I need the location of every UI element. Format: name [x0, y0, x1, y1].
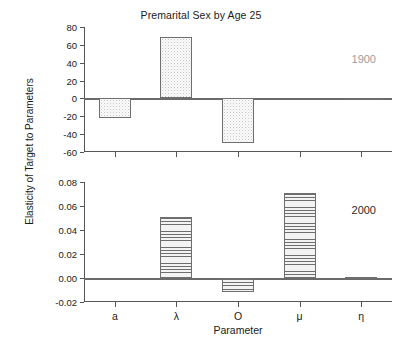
y-axis-label: Elasticity of Target to Parameters — [24, 37, 35, 267]
y-tick-label-2000: 0.08 — [59, 177, 78, 188]
x-tick-1900 — [238, 152, 239, 157]
panel-annotation-1900: 1900 — [352, 53, 376, 65]
x-tick-2000 — [115, 302, 116, 307]
y-tick-2000 — [80, 182, 84, 183]
x-tick-1900 — [115, 152, 116, 157]
y-tick-1900 — [80, 116, 84, 117]
bar-2000-μ — [284, 193, 316, 278]
y-tick-1900 — [80, 81, 84, 82]
y-tick-2000 — [80, 230, 84, 231]
y-tick-1900 — [80, 27, 84, 28]
y-tick-label-1900: 60 — [66, 39, 77, 50]
bar-2000-η — [345, 277, 377, 279]
x-tick-label-μ: μ — [297, 310, 303, 322]
y-tick-2000 — [80, 302, 84, 303]
y-tick-label-1900: -20 — [63, 111, 77, 122]
y-tick-label-2000: 0.02 — [59, 249, 78, 260]
y-tick-label-2000: 0.06 — [59, 201, 78, 212]
plot-area-1900: 806040200-20-40-60 — [84, 27, 392, 152]
y-tick-1900 — [80, 63, 84, 64]
x-tick-2000 — [300, 302, 301, 307]
y-tick-1900 — [80, 152, 84, 153]
y-axis-line-2000 — [84, 182, 85, 302]
panel-1900: 806040200-20-40-60 1900 — [84, 27, 392, 152]
panel-annotation-2000: 2000 — [352, 204, 376, 216]
y-tick-label-1900: -60 — [63, 147, 77, 158]
chart-title: Premarital Sex by Age 25 — [0, 9, 402, 21]
x-tick-1900 — [300, 152, 301, 157]
x-tick-2000 — [238, 302, 239, 307]
bar-2000-λ — [160, 217, 192, 278]
y-tick-label-1900: -40 — [63, 129, 77, 140]
bar-2000-O — [222, 278, 254, 292]
x-tick-label-η: η — [358, 310, 364, 322]
x-axis-label: Parameter — [84, 324, 392, 336]
chart-figure: Premarital Sex by Age 25 Elasticity of T… — [0, 0, 402, 343]
y-tick-1900 — [80, 45, 84, 46]
bar-1900-O — [222, 98, 254, 143]
bar-1900-η — [345, 98, 377, 100]
y-axis-line-1900 — [84, 27, 85, 152]
x-tick-2000 — [361, 302, 362, 307]
y-tick-label-1900: 40 — [66, 57, 77, 68]
y-tick-label-1900: 20 — [66, 75, 77, 86]
plot-area-2000: 0.080.060.040.020.00-0.02aλOμη — [84, 182, 392, 302]
y-tick-2000 — [80, 254, 84, 255]
y-tick-label-2000: 0.00 — [59, 273, 78, 284]
y-tick-label-1900: 0 — [72, 93, 77, 104]
x-tick-1900 — [176, 152, 177, 157]
x-tick-label-λ: λ — [174, 310, 179, 322]
y-tick-2000 — [80, 206, 84, 207]
panel-2000: 0.080.060.040.020.00-0.02aλOμη 2000 — [84, 182, 392, 302]
bar-1900-λ — [160, 37, 192, 99]
y-tick-1900 — [80, 134, 84, 135]
y-tick-label-2000: -0.02 — [55, 297, 77, 308]
x-tick-1900 — [361, 152, 362, 157]
x-tick-label-a: a — [112, 310, 118, 322]
y-tick-label-2000: 0.04 — [59, 225, 78, 236]
x-tick-2000 — [176, 302, 177, 307]
y-tick-label-1900: 80 — [66, 22, 77, 33]
x-tick-label-O: O — [234, 310, 242, 322]
bar-1900-a — [99, 98, 131, 118]
